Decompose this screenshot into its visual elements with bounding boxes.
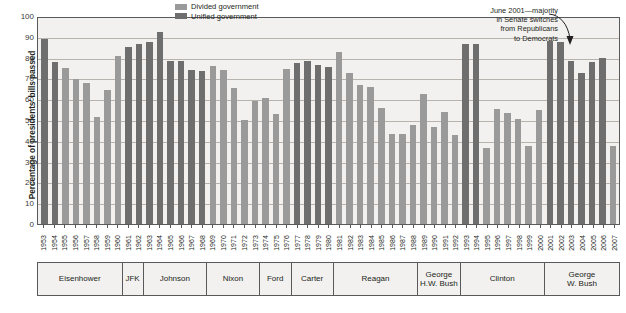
bar-2006[interactable]	[599, 58, 606, 224]
y-tick-label-20: 20	[8, 179, 34, 187]
bar-1995[interactable]	[483, 148, 490, 224]
year-label-1961: 1961	[124, 235, 131, 251]
bar-2002[interactable]	[557, 42, 564, 224]
bar-1972[interactable]	[241, 120, 248, 224]
bar-1996[interactable]	[494, 109, 501, 224]
bar-1986[interactable]	[389, 134, 396, 224]
year-label-1999: 1999	[526, 235, 533, 251]
bar-1987[interactable]	[399, 134, 406, 224]
bar-1958[interactable]	[94, 117, 101, 224]
bar-cell-2004	[576, 18, 587, 224]
bar-1966[interactable]	[178, 61, 185, 224]
bar-1975[interactable]	[273, 114, 280, 224]
year-cell-2004: 2004	[577, 226, 588, 262]
bar-1955[interactable]	[62, 68, 69, 224]
bar-1954[interactable]	[52, 62, 59, 224]
bar-1991[interactable]	[441, 112, 448, 224]
bar-1992[interactable]	[452, 135, 459, 224]
bar-1965[interactable]	[167, 61, 174, 224]
bar-cell-1960	[113, 18, 124, 224]
bar-1988[interactable]	[410, 125, 417, 224]
year-label-2007: 2007	[610, 235, 617, 251]
bar-1957[interactable]	[83, 83, 90, 224]
bar-2005[interactable]	[589, 62, 596, 224]
year-cell-1981: 1981	[334, 226, 345, 262]
year-cell-1970: 1970	[218, 226, 229, 262]
year-label-1955: 1955	[61, 235, 68, 251]
year-cell-1979: 1979	[313, 226, 324, 262]
bar-2001[interactable]	[547, 41, 554, 224]
bar-1990[interactable]	[431, 127, 438, 224]
bar-1960[interactable]	[115, 56, 122, 224]
bar-1985[interactable]	[378, 108, 385, 224]
bar-1997[interactable]	[504, 113, 511, 224]
bar-1994[interactable]	[473, 44, 480, 224]
bar-1982[interactable]	[346, 73, 353, 224]
bar-1962[interactable]	[136, 44, 143, 224]
bar-cell-1984	[365, 18, 376, 224]
bar-1956[interactable]	[73, 79, 80, 224]
bar-1971[interactable]	[231, 88, 238, 224]
bar-1967[interactable]	[188, 70, 195, 224]
bar-cell-1971	[229, 18, 240, 224]
chart-container: Percentage of presidents' bills passed 1…	[0, 0, 626, 313]
bar-1969[interactable]	[210, 66, 217, 224]
bar-cell-1968	[197, 18, 208, 224]
bar-1977[interactable]	[294, 63, 301, 224]
bar-1989[interactable]	[420, 94, 427, 224]
president-label: Ford	[267, 274, 283, 284]
bar-1984[interactable]	[367, 87, 374, 224]
bar-1980[interactable]	[325, 67, 332, 224]
bar-2000[interactable]	[536, 110, 543, 224]
bar-cell-1973	[250, 18, 261, 224]
bar-1974[interactable]	[262, 98, 269, 224]
bar-1973[interactable]	[252, 101, 259, 224]
bar-2007[interactable]	[610, 146, 617, 224]
bar-cell-1999	[523, 18, 534, 224]
year-label-1957: 1957	[82, 235, 89, 251]
bar-1993[interactable]	[462, 44, 469, 224]
bar-cell-1992	[450, 18, 461, 224]
bar-1981[interactable]	[336, 52, 343, 224]
year-cell-1991: 1991	[439, 226, 450, 262]
bar-1953[interactable]	[41, 39, 48, 224]
bar-1976[interactable]	[283, 69, 290, 224]
bar-2004[interactable]	[578, 73, 585, 224]
bar-1979[interactable]	[315, 65, 322, 224]
president-segment-clinton: Clinton	[461, 263, 546, 295]
year-label-1977: 1977	[293, 235, 300, 251]
bar-cell-1964	[155, 18, 166, 224]
bar-1961[interactable]	[125, 47, 132, 224]
bar-1964[interactable]	[157, 32, 164, 224]
president-segment-reagan: Reagan	[334, 263, 419, 295]
bar-cell-1982	[344, 18, 355, 224]
year-cell-2003: 2003	[566, 226, 577, 262]
year-label-1991: 1991	[441, 235, 448, 251]
bar-1963[interactable]	[146, 42, 153, 224]
year-cell-1958: 1958	[91, 226, 102, 262]
year-cell-1996: 1996	[492, 226, 503, 262]
bar-1998[interactable]	[515, 119, 522, 224]
bar-1978[interactable]	[304, 61, 311, 224]
year-label-1959: 1959	[103, 235, 110, 251]
year-label-1973: 1973	[251, 235, 258, 251]
year-cell-1975: 1975	[270, 226, 281, 262]
year-label-2004: 2004	[578, 235, 585, 251]
year-cell-1956: 1956	[70, 226, 81, 262]
legend-label-divided: Divided government	[191, 2, 259, 12]
bar-1999[interactable]	[525, 146, 532, 224]
bar-1983[interactable]	[357, 85, 364, 224]
year-label-1966: 1966	[177, 235, 184, 251]
bar-1968[interactable]	[199, 71, 206, 224]
bar-cell-1990	[429, 18, 440, 224]
year-cell-1984: 1984	[365, 226, 376, 262]
year-label-1956: 1956	[71, 235, 78, 251]
bar-2003[interactable]	[568, 61, 575, 224]
year-cell-1980: 1980	[323, 226, 334, 262]
bar-1959[interactable]	[104, 90, 111, 224]
bar-cell-1972	[239, 18, 250, 224]
bar-1970[interactable]	[220, 70, 227, 224]
year-label-1975: 1975	[272, 235, 279, 251]
year-cell-1967: 1967	[186, 226, 197, 262]
bar-cell-1966	[176, 18, 187, 224]
